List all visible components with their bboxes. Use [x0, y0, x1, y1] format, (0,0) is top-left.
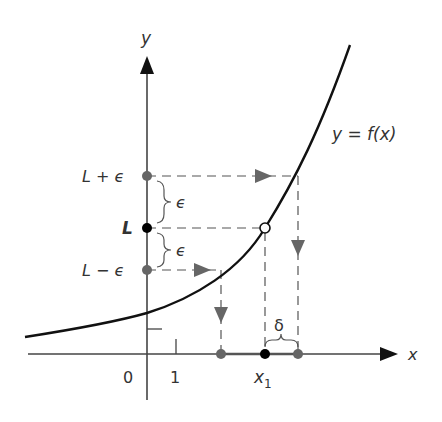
curve-fx [25, 45, 350, 337]
epsilon-label-upper: ϵ [176, 193, 186, 212]
limit-diagram: y x 0 1 y = f(x) L + ϵ L L − ϵ ϵ ϵ δ [0, 0, 442, 422]
arrow-down-left-icon [214, 307, 228, 323]
marker-x-right [293, 349, 303, 359]
open-point [260, 223, 270, 233]
marker-L [142, 223, 152, 233]
delta-label: δ [274, 316, 284, 335]
marker-L-plus-eps [142, 171, 152, 181]
label-L-minus-eps: L − ϵ [82, 261, 124, 280]
arrow-right-lower-icon [194, 263, 211, 277]
x-axis [28, 347, 398, 361]
origin-label: 0 [123, 368, 133, 387]
marker-x1 [260, 349, 270, 359]
x-axis-arrow-icon [380, 347, 398, 361]
arrow-right-upper-icon [255, 169, 272, 183]
x1-label: x1 [253, 367, 272, 391]
marker-x-left [216, 349, 226, 359]
label-L-plus-eps: L + ϵ [82, 167, 124, 186]
label-L: L [122, 218, 133, 238]
epsilon-label-lower: ϵ [176, 241, 186, 260]
brace-eps-lower-icon [157, 233, 171, 267]
brace-eps-upper-icon [157, 181, 171, 223]
x-axis-label: x [407, 345, 418, 364]
curve-label: y = f(x) [331, 124, 396, 144]
marker-L-minus-eps [142, 265, 152, 275]
y-axis-label: y [140, 28, 152, 48]
x-tick-label: 1 [170, 368, 180, 387]
arrow-down-right-icon [291, 240, 305, 256]
y-axis-arrow-icon [140, 56, 154, 74]
brace-delta-icon [265, 334, 298, 347]
